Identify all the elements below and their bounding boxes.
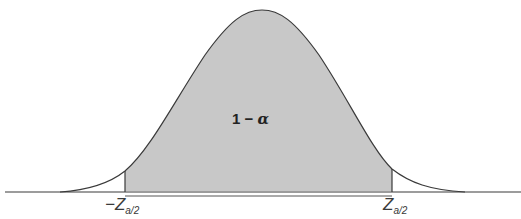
right-critical-z: Z [383, 195, 393, 214]
shaded-area [125, 10, 392, 191]
left-critical-label: −Za/2 [105, 195, 139, 216]
alpha-symbol: α [257, 110, 269, 128]
confidence-number: 1 − [232, 110, 253, 127]
confidence-label: 1 − α [232, 110, 269, 128]
left-critical-subscript: a/2 [125, 205, 139, 216]
right-critical-label: Za/2 [383, 195, 407, 216]
left-critical-z: −Z [105, 195, 125, 214]
right-critical-subscript: a/2 [393, 205, 407, 216]
